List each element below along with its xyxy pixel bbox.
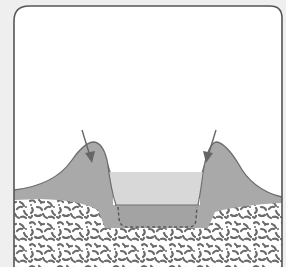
basin-fill xyxy=(116,206,198,226)
diagram-canvas xyxy=(0,0,286,267)
water-pool xyxy=(109,172,204,205)
pit-cross-section-diagram xyxy=(0,0,286,267)
